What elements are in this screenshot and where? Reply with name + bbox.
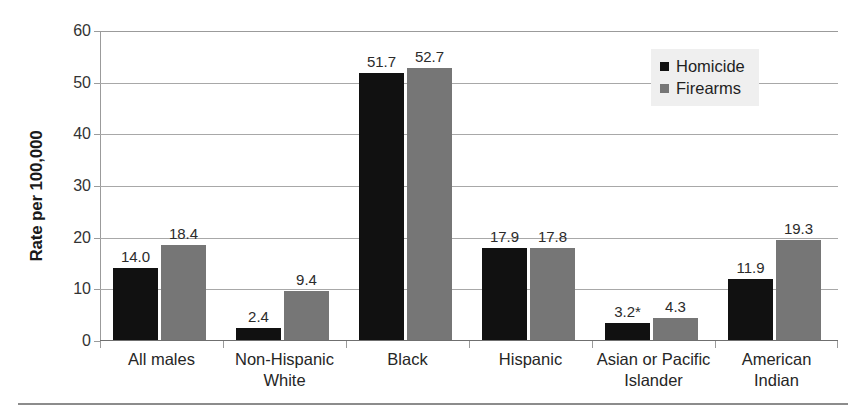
- bar-value-label: 3.2*: [614, 303, 641, 320]
- bar-value-label: 11.9: [736, 259, 764, 276]
- y-tick-label-40: 40: [55, 125, 91, 143]
- x-axis-tick: [715, 341, 716, 348]
- bar-firearms: 17.8: [530, 248, 575, 340]
- bar-value-label: 17.8: [538, 228, 567, 245]
- category-label-line: Black: [346, 349, 469, 370]
- category-label-line: Asian or Pacific: [592, 349, 715, 370]
- bar-value-label: 51.7: [367, 53, 396, 70]
- x-axis-tick: [592, 341, 593, 348]
- bar-homicide: 17.9: [482, 248, 527, 340]
- y-tick-label-50: 50: [55, 74, 91, 92]
- legend-item-homicide: Homicide: [660, 55, 745, 77]
- bar-group: 2.49.4: [223, 31, 346, 340]
- category-label-line: American: [715, 349, 838, 370]
- bar-firearms: 9.4: [284, 291, 329, 340]
- bar-group: 51.752.7: [346, 31, 469, 340]
- x-axis-tick-end: [100, 341, 101, 348]
- bar-group: 17.917.8: [469, 31, 592, 340]
- category-label-line: Non-Hispanic: [223, 349, 346, 370]
- y-tick-label-30: 30: [55, 177, 91, 195]
- x-axis-tick: [223, 341, 224, 348]
- y-axis-title: Rate per 100,000: [27, 96, 47, 296]
- y-tick-label-60: 60: [55, 22, 91, 40]
- bar-value-label: 9.4: [296, 271, 317, 288]
- category-label-line: Hispanic: [469, 349, 592, 370]
- bar-homicide: 2.4: [236, 328, 281, 340]
- x-axis-tick: [346, 341, 347, 348]
- legend-label-firearms: Firearms: [676, 77, 741, 99]
- bar-value-label: 4.3: [665, 298, 686, 315]
- legend-swatch-firearms-icon: [660, 84, 669, 93]
- y-tick-label-20: 20: [55, 229, 91, 247]
- bar-firearms: 52.7: [407, 68, 452, 340]
- category-label-line: Indian: [715, 370, 838, 391]
- category-label-line: All males: [100, 349, 223, 370]
- bar-homicide: 14.0: [113, 268, 158, 340]
- bar-value-label: 52.7: [415, 48, 444, 65]
- bar-firearms: 19.3: [776, 240, 821, 340]
- bar-homicide: 51.7: [359, 73, 404, 340]
- bar-chart-figure: Rate per 100,000 0102030405060 14.018.42…: [0, 0, 866, 414]
- legend-item-firearms: Firearms: [660, 77, 745, 99]
- bar-value-label: 14.0: [121, 248, 150, 265]
- bar-homicide: 3.2*: [605, 323, 650, 340]
- category-label: Asian or PacificIslander: [592, 349, 715, 391]
- bar-value-label: 19.3: [784, 220, 813, 237]
- category-label: Hispanic: [469, 349, 592, 370]
- bar-group: 14.018.4: [100, 31, 223, 340]
- chart-legend: Homicide Firearms: [651, 49, 759, 106]
- category-label: Black: [346, 349, 469, 370]
- y-tick-label-0: 0: [55, 332, 91, 350]
- category-label: AmericanIndian: [715, 349, 838, 391]
- bar-value-label: 2.4: [248, 308, 269, 325]
- category-label-line: Islander: [592, 370, 715, 391]
- bar-firearms: 18.4: [161, 245, 206, 340]
- bar-value-label: 18.4: [169, 225, 198, 242]
- x-axis-tick: [469, 341, 470, 348]
- legend-swatch-homicide-icon: [660, 62, 669, 71]
- bar-homicide: 11.9: [728, 279, 773, 340]
- category-label-line: White: [223, 370, 346, 391]
- y-tick-label-10: 10: [55, 280, 91, 298]
- x-axis-tick-end: [837, 341, 838, 348]
- category-label: Non-HispanicWhite: [223, 349, 346, 391]
- category-label: All males: [100, 349, 223, 370]
- bar-value-label: 17.9: [490, 228, 519, 245]
- legend-label-homicide: Homicide: [676, 55, 745, 77]
- bottom-divider: [18, 403, 848, 405]
- bar-firearms: 4.3: [653, 318, 698, 340]
